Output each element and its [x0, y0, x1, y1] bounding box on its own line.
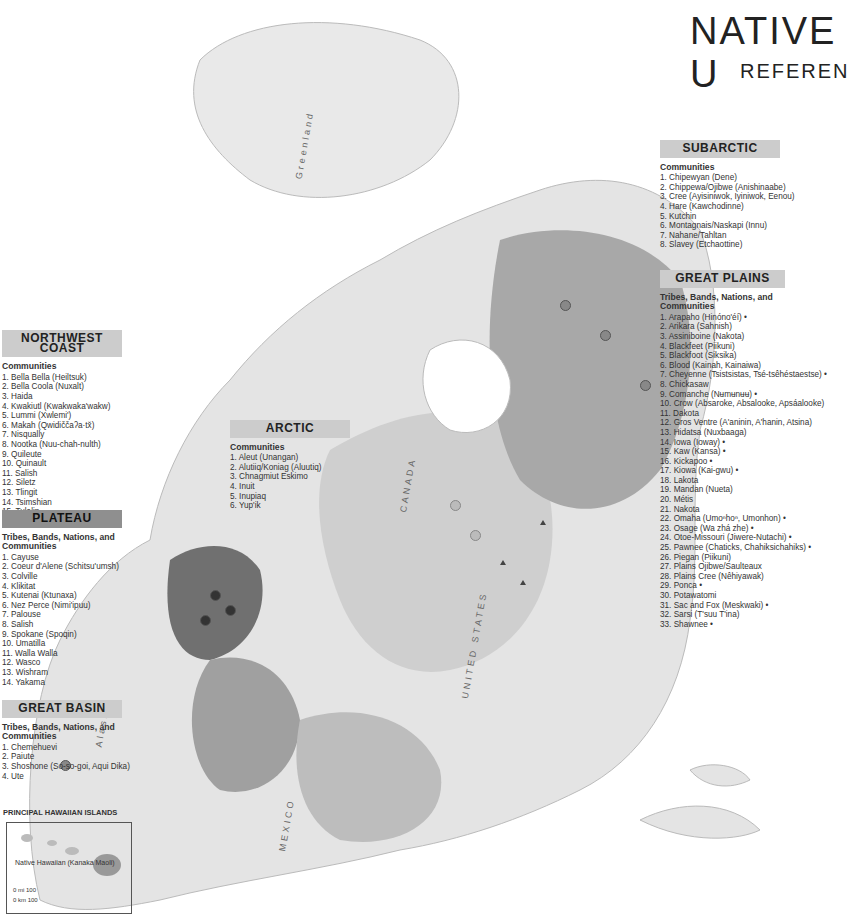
list-item: 6. Yup'ik: [230, 501, 350, 511]
map-marker[interactable]: [600, 330, 611, 341]
list-item: 2. Bella Coola (Nuxalt): [2, 382, 122, 392]
list-item: 3. Assiniboine (Nakota): [660, 332, 785, 342]
list-item: 2. Coeur d'Alene (Schitsu'umsh): [2, 562, 122, 572]
list-item: 14. Yakama: [2, 678, 122, 688]
list-item: 11. Dakota: [660, 409, 785, 419]
list-item: 5. Blackfoot (Siksika): [660, 351, 785, 361]
map-marker[interactable]: [470, 530, 481, 541]
list-item: 9. Spokane (Spoqin): [2, 630, 122, 640]
list-item: 2. Paiute: [2, 752, 122, 762]
map-marker[interactable]: [200, 615, 211, 626]
list-item: 32. Sarsi (T'suu T'ina): [660, 610, 785, 620]
greenland-landmass: [194, 23, 459, 198]
list-item: 7. Cheyenne (Tsistsistas, Tsé-tsêhéstaes…: [660, 370, 785, 380]
list-item: 7. Nahane/Tahltan: [660, 231, 780, 241]
map-marker[interactable]: [225, 605, 236, 616]
list-item: 9. Comanche (Nʉmʉnʉʉ) •: [660, 390, 785, 400]
subarctic-panel: SUBARCTIC Communities 1. Chipewyan (Dene…: [660, 140, 780, 250]
inset-label: Native Hawaiian (Kanaka Maoli): [15, 859, 115, 867]
list-item: 6. Makah (Qwidiččaʔa·tx̌): [2, 421, 122, 431]
list-item: 15. Kaw (Kansa) •: [660, 447, 785, 457]
northwest-coast-subheader: Communities: [2, 362, 122, 372]
list-item: 28. Plains Cree (Nêhiyawak): [660, 572, 785, 582]
northwest-coast-panel: NORTHWEST COAST Communities 1. Bella Bel…: [2, 330, 122, 517]
page-title: NATIVE U: [690, 10, 836, 96]
list-item: 6. Blood (Kainah, Kainaiwa): [660, 361, 785, 371]
northwest-coast-header: NORTHWEST COAST: [2, 330, 122, 357]
list-item: 4. Kwakiutl (Kwakwaka'wakw): [2, 402, 122, 412]
list-item: 3. Cree (Ayisiniwok, Iyiniwok, Eenou): [660, 192, 780, 202]
arctic-subheader: Communities: [230, 443, 350, 453]
list-item: 3. Haida: [2, 392, 122, 402]
list-item: 11. Walla Walla: [2, 649, 122, 659]
list-item: 2. Alutiiq/Koniag (Aluutiq): [230, 463, 350, 473]
list-item: 4. Ute: [2, 772, 122, 782]
scale-km: 0 km 100: [13, 897, 38, 903]
map-marker[interactable]: [640, 380, 651, 391]
hispaniola-island: [690, 765, 750, 786]
great-basin-header: GREAT BASIN: [2, 700, 122, 718]
great-plains-list: 1. Arapaho (Hinóno'éí) • 2. Arikara (Sah…: [660, 313, 785, 630]
list-item: 12. Gros Ventre (A'aninin, A'hanin, Atsi…: [660, 418, 785, 428]
list-item: 8. Slavey (Etchaottine): [660, 240, 780, 250]
list-item: 8. Nootka (Nuu-chah-nulth): [2, 440, 122, 450]
great-basin-subheader: Tribes, Bands, Nations, and Communities: [2, 723, 122, 742]
list-item: 18. Lakota: [660, 476, 785, 486]
list-item: 1. Arapaho (Hinóno'éí) •: [660, 313, 785, 323]
list-item: 14. Tsimshian: [2, 498, 122, 508]
triangle-marker-icon: [540, 520, 546, 525]
list-item: 1. Aleut (Unangan): [230, 453, 350, 463]
list-item: 22. Omaha (Umoⁿhoⁿ, Umonhon) •: [660, 514, 785, 524]
map-marker[interactable]: [210, 590, 221, 601]
list-item: 3. Chnagmiut Eskimo: [230, 472, 350, 482]
page-subtitle: REFEREN: [740, 60, 850, 83]
great-plains-panel: GREAT PLAINS Tribes, Bands, Nations, and…: [660, 270, 785, 629]
list-item: 10. Crow (Absaroke, Absalooke, Apsáalook…: [660, 399, 785, 409]
subarctic-header: SUBARCTIC: [660, 140, 780, 158]
list-item: 30. Potawatomi: [660, 591, 785, 601]
plateau-header: PLATEAU: [2, 510, 122, 528]
inset-title: PRINCIPAL HAWAIIAN ISLANDS: [3, 808, 133, 817]
scale-miles: 0 mi 100: [13, 887, 36, 893]
list-item: 33. Shawnee •: [660, 620, 785, 630]
list-item: 24. Otoe-Missouri (Jiwere-Nutachi) •: [660, 533, 785, 543]
list-item: 3. Shoshone (So-so-goi, Aqui Dika): [2, 762, 122, 772]
great-plains-header: GREAT PLAINS: [660, 270, 785, 288]
list-item: 4. Blackfeet (Piikuni): [660, 342, 785, 352]
list-item: 9. Quileute: [2, 450, 122, 460]
list-item: 3. Colville: [2, 572, 122, 582]
arctic-header: ARCTIC: [230, 420, 350, 438]
list-item: 1. Chemehuevi: [2, 743, 122, 753]
list-item: 7. Nisqually: [2, 430, 122, 440]
great-plains-subheader: Tribes, Bands, Nations, and Communities: [660, 293, 785, 312]
list-item: 2. Chippewa/Ojibwe (Anishinaabe): [660, 183, 780, 193]
list-item: 13. Tlingit: [2, 488, 122, 498]
list-item: 5. Kutchin: [660, 212, 780, 222]
arctic-list: 1. Aleut (Unangan) 2. Alutiiq/Koniag (Al…: [230, 453, 350, 511]
list-item: 1. Chipewyan (Dene): [660, 173, 780, 183]
list-item: 10. Quinault: [2, 459, 122, 469]
list-item: 21. Nakota: [660, 505, 785, 515]
list-item: 13. Wishram: [2, 668, 122, 678]
list-item: 6. Montagnais/Naskapi (Innu): [660, 221, 780, 231]
list-item: 6. Nez Perce (Nimi'ipuu): [2, 601, 122, 611]
triangle-marker-icon: [520, 580, 526, 585]
hawaii-islands-icon: [7, 823, 131, 883]
triangle-marker-icon: [500, 560, 506, 565]
list-item: 1. Bella Bella (Heiltsuk): [2, 373, 122, 383]
map-marker[interactable]: [560, 300, 571, 311]
list-item: 4. Hare (Kawchodinne): [660, 202, 780, 212]
list-item: 5. Lummi (Xwlemi'): [2, 411, 122, 421]
list-item: 31. Sac and Fox (Meskwaki) •: [660, 601, 785, 611]
northwest-coast-list: 1. Bella Bella (Heiltsuk) 2. Bella Coola…: [2, 373, 122, 517]
map-marker[interactable]: [450, 500, 461, 511]
list-item: 5. Inupiaq: [230, 492, 350, 502]
list-item: 4. Klikitat: [2, 582, 122, 592]
subarctic-list: 1. Chipewyan (Dene) 2. Chippewa/Ojibwe (…: [660, 173, 780, 250]
list-item: 19. Mandan (Nueta): [660, 485, 785, 495]
cuba-island: [640, 806, 760, 838]
subarctic-subheader: Communities: [660, 163, 780, 173]
arctic-panel: ARCTIC Communities 1. Aleut (Unangan) 2.…: [230, 420, 350, 511]
plateau-subheader: Tribes, Bands, Nations, and Communities: [2, 533, 122, 552]
list-item: 23. Osage (Wa zhá zhe) •: [660, 524, 785, 534]
